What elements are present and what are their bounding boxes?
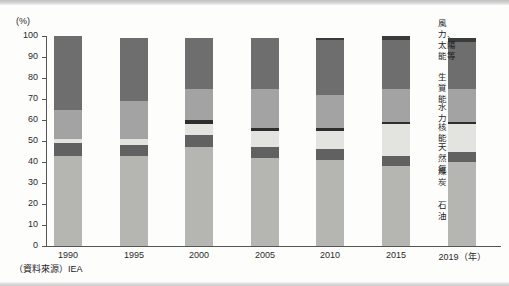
bar-segment-2015-煤炭 <box>382 156 410 167</box>
bar-segment-2019-核能 <box>448 122 476 124</box>
bar-segment-2010-生質能 <box>316 40 344 95</box>
bar-1990 <box>54 36 82 246</box>
plot-area <box>46 36 501 246</box>
bar-segment-1995-生質能 <box>120 38 148 101</box>
bar-segment-2000-煤炭 <box>185 135 213 148</box>
bar-segment-2015-風力、太陽能等 <box>382 36 410 40</box>
y-tick-label-10: 10 <box>10 219 38 229</box>
x-tick-label-2010: 2010 <box>300 250 360 260</box>
bar-segment-2010-水力 <box>316 95 344 129</box>
legend-item-水力: 水力 <box>438 102 447 124</box>
bar-segment-2019-煤炭 <box>448 152 476 163</box>
bar-segment-2019-水力 <box>448 89 476 123</box>
bar-segment-2005-石油 <box>251 158 279 246</box>
bar-segment-2000-天然氣 <box>185 124 213 135</box>
y-tick-label-80: 80 <box>10 72 38 82</box>
y-tick-label-50: 50 <box>10 135 38 145</box>
source-note: （資料來源）IEA <box>14 262 83 275</box>
bar-segment-2005-核能 <box>251 128 279 130</box>
bar-segment-2005-天然氣 <box>251 131 279 148</box>
bar-segment-2010-石油 <box>316 160 344 246</box>
bar-2000 <box>185 38 213 246</box>
y-tick-label-100: 100 <box>10 30 38 40</box>
y-tick-label-30: 30 <box>10 177 38 187</box>
bar-segment-2000-石油 <box>185 147 213 246</box>
bar-segment-2015-生質能 <box>382 40 410 88</box>
bar-2019 <box>448 38 476 246</box>
x-tick-label-2000: 2000 <box>169 250 229 260</box>
x-axis-line <box>46 246 501 247</box>
bar-segment-2005-生質能 <box>251 38 279 88</box>
y-tick-label-0: 0 <box>10 240 38 250</box>
bar-segment-2015-水力 <box>382 89 410 123</box>
x-tick-label-1990: 1990 <box>38 250 98 260</box>
y-tick-label-40: 40 <box>10 156 38 166</box>
bar-segment-1990-煤炭 <box>54 143 82 156</box>
bar-segment-1990-生質能 <box>54 36 82 110</box>
bar-segment-2019-石油 <box>448 162 476 246</box>
legend-item-風力、太陽能等: 風力、 太陽能等 <box>438 18 456 62</box>
legend-item-石油: 石油 <box>438 200 447 222</box>
bar-2015 <box>382 36 410 246</box>
legend-item-煤炭: 煤炭 <box>438 166 447 188</box>
bar-segment-2015-石油 <box>382 166 410 246</box>
bar-segment-2010-天然氣 <box>316 131 344 150</box>
bar-segment-2015-核能 <box>382 122 410 124</box>
bar-2010 <box>316 38 344 246</box>
y-tick-label-60: 60 <box>10 114 38 124</box>
page-edge-top <box>0 0 509 5</box>
y-axis-unit-label: (%) <box>16 16 30 26</box>
x-tick-label-2019: 2019（年） <box>432 250 492 263</box>
bar-segment-2015-天然氣 <box>382 124 410 156</box>
bar-segment-2000-核能 <box>185 120 213 124</box>
bar-segment-2010-核能 <box>316 128 344 130</box>
x-tick-label-1995: 1995 <box>104 250 164 260</box>
bar-segment-1990-石油 <box>54 156 82 246</box>
bar-segment-2010-風力、太陽能等 <box>316 38 344 40</box>
bar-segment-1990-天然氣 <box>54 139 82 143</box>
bar-segment-2000-水力 <box>185 89 213 121</box>
bar-1995 <box>120 38 148 246</box>
y-tick-label-70: 70 <box>10 93 38 103</box>
y-tick-label-20: 20 <box>10 198 38 208</box>
bar-segment-2005-水力 <box>251 89 279 129</box>
legend-item-生質能: 生質能 <box>438 72 447 105</box>
bar-segment-1990-水力 <box>54 110 82 139</box>
y-tick-label-90: 90 <box>10 51 38 61</box>
y-tick-mark-0 <box>42 246 46 247</box>
x-tick-label-2015: 2015 <box>366 250 426 260</box>
x-tick-label-2005: 2005 <box>235 250 295 260</box>
bar-segment-1995-石油 <box>120 156 148 246</box>
bar-segment-2010-煤炭 <box>316 149 344 160</box>
bar-segment-2000-生質能 <box>185 38 213 88</box>
bar-segment-1995-水力 <box>120 101 148 139</box>
bar-segment-1995-煤炭 <box>120 145 148 156</box>
bar-segment-2019-天然氣 <box>448 124 476 151</box>
bar-segment-2005-煤炭 <box>251 147 279 158</box>
chart-figure: (%) 1009080706050403020100 1990199520002… <box>0 0 509 286</box>
bar-segment-1995-天然氣 <box>120 139 148 145</box>
bar-2005 <box>251 38 279 246</box>
legend-item-核能: 核能 <box>438 122 447 144</box>
page-edge-bottom <box>0 282 509 286</box>
